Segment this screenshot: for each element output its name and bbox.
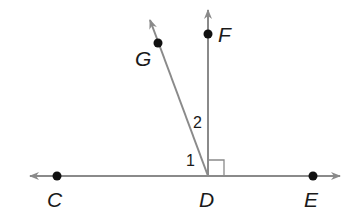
point-g bbox=[154, 39, 163, 48]
point-e bbox=[309, 172, 318, 181]
label-d: D bbox=[199, 188, 214, 211]
angle-1-label: 1 bbox=[186, 152, 195, 169]
right-angle-marker bbox=[208, 160, 224, 176]
point-f bbox=[204, 30, 213, 39]
label-c: C bbox=[47, 188, 63, 211]
label-f: F bbox=[218, 23, 232, 46]
point-c bbox=[53, 172, 62, 181]
geometry-diagram: C D E F G 1 2 bbox=[0, 0, 357, 219]
angle-2-label: 2 bbox=[193, 114, 202, 131]
label-e: E bbox=[304, 188, 319, 211]
label-g: G bbox=[135, 47, 151, 70]
